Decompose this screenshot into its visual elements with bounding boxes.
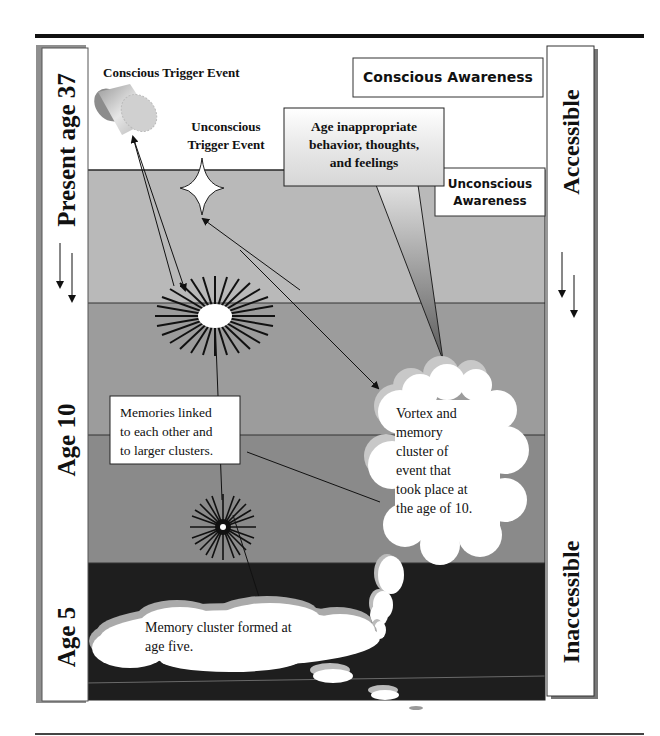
memories-linked-box: Memories linked to each other and to lar…	[110, 396, 240, 464]
svg-text:and feelings: and feelings	[330, 155, 399, 170]
label-inaccessible: Inaccessible	[558, 540, 584, 663]
svg-text:cluster of: cluster of	[396, 444, 449, 459]
unconscious-trigger-label-2: Trigger Event	[187, 137, 265, 152]
conscious-trigger-label: Conscious Trigger Event	[103, 65, 240, 80]
svg-text:age five.: age five.	[145, 639, 193, 654]
svg-text:memory: memory	[396, 425, 443, 440]
svg-text:Memory cluster formed at: Memory cluster formed at	[145, 620, 292, 635]
svg-text:Vortex and: Vortex and	[396, 406, 457, 421]
label-age-5: Age 5	[53, 607, 80, 667]
svg-text:event that: event that	[396, 463, 451, 478]
svg-text:to each other and: to each other and	[120, 424, 213, 439]
svg-text:Conscious Awareness: Conscious Awareness	[363, 69, 533, 85]
label-present-age-37: Present age 37	[53, 73, 80, 227]
memory-layers-diagram: Present age 37 Age 10 Age 5 Accessible I…	[0, 0, 660, 736]
top-rule	[35, 34, 644, 38]
left-axis-bar: Present age 37 Age 10 Age 5	[36, 45, 88, 703]
conscious-awareness-box: Conscious Awareness	[353, 58, 543, 97]
svg-text:took place at: took place at	[396, 482, 468, 497]
right-axis-bar: Accessible Inaccessible	[547, 46, 598, 699]
label-accessible: Accessible	[558, 89, 584, 195]
bottom-rule	[35, 733, 644, 735]
svg-text:Age inappropriate: Age inappropriate	[311, 119, 417, 134]
svg-text:Memories linked: Memories linked	[120, 405, 212, 420]
svg-text:the age of 10.: the age of 10.	[396, 501, 472, 516]
svg-text:Awareness: Awareness	[453, 194, 527, 208]
unconscious-trigger-label-1: Unconscious	[191, 119, 260, 134]
svg-text:to larger clusters.: to larger clusters.	[120, 443, 213, 458]
svg-text:behavior, thoughts,: behavior, thoughts,	[309, 137, 419, 152]
svg-text:Unconscious: Unconscious	[448, 177, 533, 191]
unconscious-awareness-box: Unconscious Awareness	[435, 168, 545, 216]
label-age-10: Age 10	[53, 404, 80, 477]
